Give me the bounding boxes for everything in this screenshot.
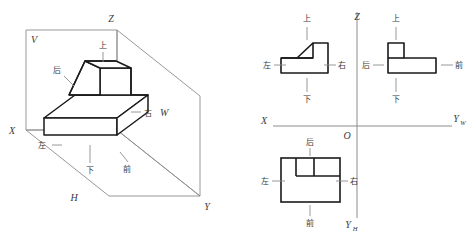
- top-view: 后 左 右 前: [261, 137, 358, 228]
- side-view-label-front: 前: [455, 60, 463, 70]
- label-plane-h: H: [69, 192, 78, 203]
- side-view-label-down: 下: [392, 95, 400, 104]
- front-view-slope-line: [297, 43, 313, 58]
- label-axis-z-left: Z: [108, 13, 114, 24]
- front-view-label-right: 右: [338, 60, 346, 70]
- label-axis-yh-letter: Y: [345, 219, 352, 230]
- label-direction-front-left: 前: [123, 164, 131, 174]
- label-axis-yh: Y H: [345, 219, 357, 232]
- wedge-right-face: [100, 68, 131, 95]
- leader-front: [120, 152, 128, 162]
- right-panel-three-views: X Z O Y W Y H 上 左 右 下: [260, 11, 466, 232]
- label-direction-up-left: 上: [99, 41, 107, 50]
- projection-figure: V H W Z X Y 上 后 右 左 下 前 X Z O Y W Y H: [0, 0, 473, 239]
- label-axis-x-right: X: [260, 115, 268, 126]
- front-view-label-left: 左: [263, 60, 271, 70]
- label-axis-z-right: Z: [354, 11, 360, 22]
- front-view-label-up: 上: [303, 14, 311, 23]
- side-view-label-back: 后: [362, 60, 370, 70]
- label-direction-left-left: 左: [38, 140, 46, 150]
- left-panel-isometric-box: V H W Z X Y 上 后 右 左 下 前: [8, 13, 211, 212]
- front-view-label-down: 下: [303, 95, 311, 104]
- label-axis-y-left: Y: [204, 201, 211, 212]
- h-plane: [26, 130, 200, 196]
- side-view-label-up: 上: [392, 14, 400, 23]
- label-axis-yw-subscript: W: [460, 119, 466, 126]
- top-view-label-right: 右: [350, 176, 358, 186]
- label-axis-origin: O: [343, 130, 350, 141]
- label-plane-v: V: [31, 34, 39, 45]
- label-axis-x-left: X: [8, 125, 16, 136]
- side-view: 上 后 前 下: [362, 14, 463, 104]
- leader-back: [64, 76, 74, 86]
- top-view-outline: [281, 158, 340, 202]
- top-view-label-left: 左: [261, 176, 269, 186]
- label-direction-back-left: 后: [53, 65, 61, 75]
- top-view-label-back: 后: [306, 137, 314, 147]
- label-plane-w: W: [160, 107, 170, 118]
- top-view-label-front: 前: [306, 218, 314, 228]
- label-axis-yh-subscript: H: [352, 225, 358, 232]
- front-view: 上 左 右 下: [263, 14, 346, 104]
- label-direction-down-left: 下: [86, 166, 94, 175]
- h-plane-outline: [26, 130, 200, 196]
- label-direction-right-left: 右: [144, 108, 152, 118]
- label-axis-yw: Y W: [453, 113, 466, 126]
- base-front-face: [44, 118, 117, 135]
- label-axis-yw-letter: Y: [453, 113, 460, 124]
